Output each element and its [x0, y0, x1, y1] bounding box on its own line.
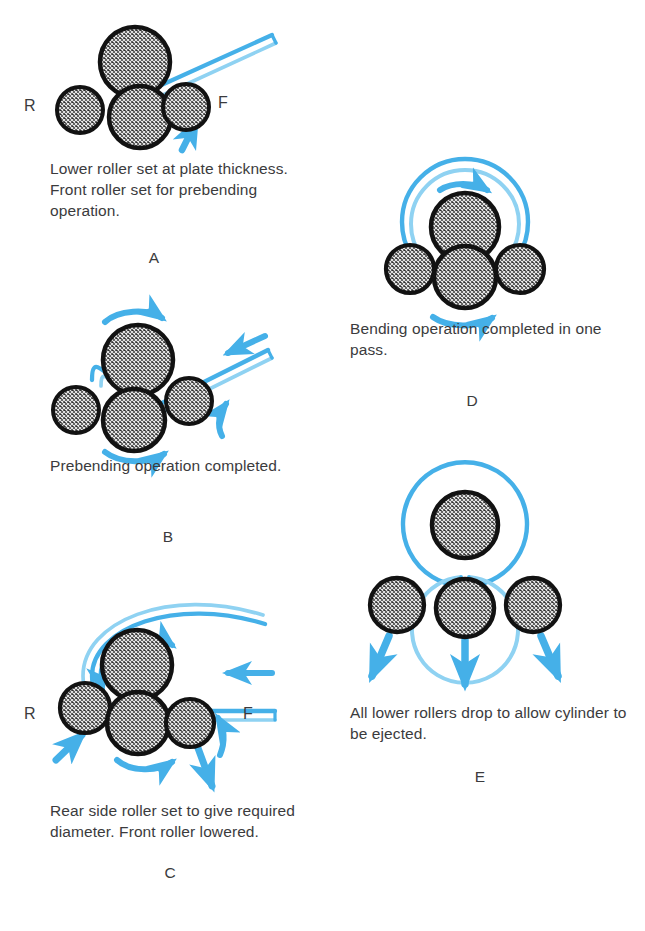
label-front-roller-a: F — [218, 94, 228, 112]
arrow-bottom-roller-rotation-c — [117, 760, 172, 769]
panel-c-figure — [56, 605, 275, 786]
panel-letter-d: D — [462, 392, 482, 410]
label-rear-roller-c: R — [24, 705, 36, 723]
rollers-a — [57, 27, 209, 148]
panel-letter-e: E — [470, 768, 490, 786]
rollers-b — [53, 325, 212, 451]
caption-e: All lower rollers drop to allow cylinder… — [350, 702, 640, 744]
panel-b-figure — [53, 312, 272, 462]
panel-a-figure — [57, 27, 276, 150]
arrow-front-roller-b — [219, 404, 226, 436]
caption-d: Bending operation completed in one pass. — [350, 318, 630, 360]
panel-letter-b: B — [158, 528, 178, 546]
caption-b: Prebending operation completed. — [50, 455, 320, 476]
panel-d-figure — [386, 159, 544, 325]
panel-letter-c: C — [160, 864, 180, 882]
label-rear-roller-a: R — [24, 97, 36, 115]
arrow-plate-feed-b — [228, 336, 265, 353]
rollers-d — [386, 193, 544, 308]
arrow-rear-roller-up-c — [56, 735, 82, 760]
arrow-front-roller-c — [218, 718, 224, 755]
arrow-front-roller-drop-e — [541, 636, 558, 676]
arrow-front-roller-down-c — [198, 748, 212, 786]
label-front-roller-c: F — [243, 705, 253, 723]
panel-letter-a: A — [144, 249, 164, 267]
arrow-top-roller-rotation-b — [105, 312, 162, 322]
caption-c: Rear side roller set to give required di… — [50, 800, 340, 842]
panel-e-figure — [370, 462, 560, 684]
rollers-e — [370, 492, 560, 637]
caption-a: Lower roller set at plate thickness. Fro… — [50, 158, 320, 221]
arrow-cylinder-rotation-d — [440, 184, 487, 190]
arrow-rear-roller-drop-e — [372, 636, 389, 676]
